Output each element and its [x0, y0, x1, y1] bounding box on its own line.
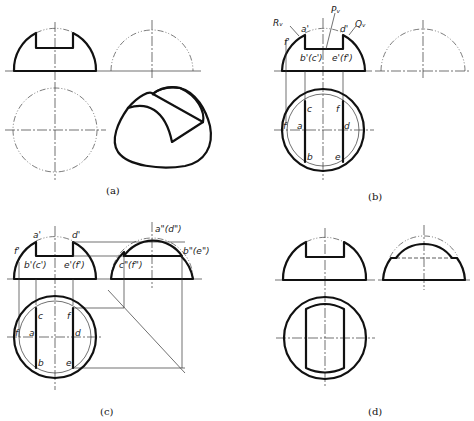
- panel-d-caption: (d): [368, 406, 382, 417]
- panel-a-isometric-view: [115, 87, 211, 167]
- panel-c-caption: (c): [100, 406, 114, 417]
- panel-a-side-view: [105, 20, 201, 80]
- panel-d-top-view: [276, 292, 375, 388]
- label-d: d: [344, 121, 350, 131]
- figure-canvas: (a) Rᵥ Pᵥ Qᵥ a' d' f' b'(c') e'(f'): [0, 0, 474, 421]
- label-c: c: [307, 104, 312, 114]
- label-e: e: [335, 152, 341, 162]
- label-c-e: e: [66, 358, 72, 368]
- miter-line-45: [108, 290, 185, 373]
- panel-a-top-view: [5, 82, 106, 180]
- label-c-f-double-prime: c"(f"): [119, 260, 142, 270]
- label-b-e-double-prime: b"(e"): [183, 246, 210, 256]
- panel-a: (a): [5, 20, 211, 196]
- panel-b-caption: (b): [368, 191, 382, 202]
- label-c-e-f-prime: e'(f'): [64, 260, 85, 270]
- panel-d-front-view: [275, 228, 375, 290]
- panel-a-front-view: [5, 22, 105, 80]
- label-R-v: Rᵥ: [273, 18, 283, 28]
- label-P-v: Pᵥ: [331, 5, 340, 15]
- label-c-f: f: [67, 311, 72, 321]
- label-c-f-prime: f': [14, 246, 20, 256]
- label-c-c: c: [38, 311, 43, 321]
- label-a-d-double-prime: a"(d"): [155, 224, 182, 234]
- panel-c-side-view: a"(d") b"(e") c"(f"): [104, 222, 210, 368]
- label-c-d-prime: d': [72, 230, 80, 240]
- label-f-prime: f': [284, 37, 290, 47]
- panel-c-front-view: a' d' f' b'(c') e'(f'): [7, 226, 185, 337]
- label-a-prime: a': [301, 24, 309, 34]
- panel-b: Rᵥ Pᵥ Qᵥ a' d' f' b'(c') e'(f') c f a d …: [273, 5, 470, 202]
- label-b-c-prime: b'(c'): [300, 53, 323, 63]
- label-b: b: [307, 152, 313, 162]
- label-d-prime: d': [340, 24, 348, 34]
- panel-c-top-view: c f a d b e f: [7, 290, 103, 390]
- label-c-d: d: [75, 328, 81, 338]
- label-c-b-c-prime: b'(c'): [24, 260, 47, 270]
- panel-b-side-view: [375, 20, 470, 80]
- panel-d-side-view: [378, 225, 470, 290]
- label-a: a: [297, 121, 303, 131]
- label-Q-v: Qᵥ: [355, 19, 366, 29]
- label-c-b: b: [38, 358, 44, 368]
- panel-d: (d): [275, 225, 470, 417]
- panel-a-caption: (a): [106, 185, 120, 196]
- panel-c: a' d' f' b'(c') e'(f') a"(d") b"(e") c"(…: [7, 222, 210, 417]
- label-f: f: [336, 104, 341, 114]
- label-c-a-prime: a': [33, 230, 41, 240]
- label-c-a: a: [29, 328, 35, 338]
- label-e-f-prime: e'(f'): [332, 53, 353, 63]
- panel-b-top-view: c f a d b e f: [274, 82, 374, 180]
